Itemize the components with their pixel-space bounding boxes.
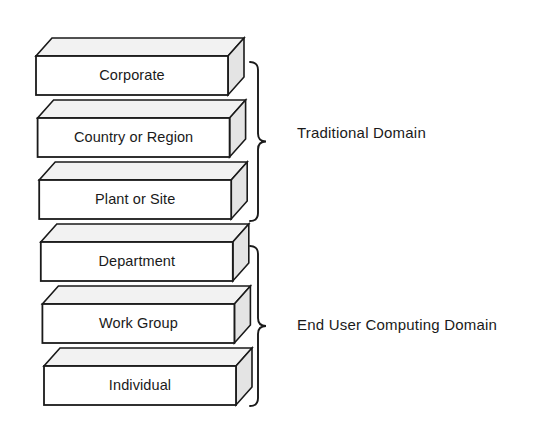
domain-stack-diagram: IndividualWork GroupDepartmentPlant or S… [0, 0, 545, 443]
bracket-end-user-computing: End User Computing Domain [250, 246, 497, 406]
block-corporate[interactable]: Corporate [36, 38, 244, 95]
block-top-face-plant-or-site [39, 162, 247, 180]
block-plant-or-site[interactable]: Plant or Site [39, 162, 247, 219]
block-label-work-group: Work Group [99, 315, 178, 331]
block-top-face-corporate [36, 38, 244, 56]
block-stack: IndividualWork GroupDepartmentPlant or S… [36, 38, 252, 405]
block-top-face-department [41, 224, 249, 242]
block-label-department: Department [98, 253, 175, 269]
block-label-country-or-region: Country or Region [74, 129, 193, 145]
bracket-label-end-user-computing: End User Computing Domain [297, 316, 497, 333]
diagram-canvas: IndividualWork GroupDepartmentPlant or S… [0, 0, 545, 443]
bracket-traditional: Traditional Domain [250, 62, 426, 221]
block-label-plant-or-site: Plant or Site [95, 191, 175, 207]
block-top-face-individual [44, 348, 252, 366]
block-top-face-work-group [42, 286, 250, 304]
bracket-brace-icon-traditional [250, 62, 266, 221]
block-label-individual: Individual [109, 377, 171, 393]
bracket-label-traditional: Traditional Domain [297, 124, 426, 141]
block-label-corporate: Corporate [99, 67, 164, 83]
block-work-group[interactable]: Work Group [42, 286, 250, 343]
block-department[interactable]: Department [41, 224, 249, 281]
block-top-face-country-or-region [38, 100, 246, 118]
block-country-or-region[interactable]: Country or Region [38, 100, 246, 157]
block-individual[interactable]: Individual [44, 348, 252, 405]
group-brackets: Traditional DomainEnd User Computing Dom… [250, 62, 497, 406]
